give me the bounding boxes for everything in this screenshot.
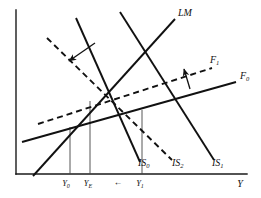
curve-label-is2: IS2 <box>171 157 184 169</box>
curve-is2 <box>47 38 172 160</box>
axes-group <box>16 10 247 174</box>
curve-label-is1: IS1 <box>211 157 224 169</box>
curve-label-f1: F1 <box>209 54 219 66</box>
curve-label-is0: IS0 <box>137 157 150 169</box>
curves-group <box>22 12 236 176</box>
is-lm-figure: LM IS0 IS1 IS2 F0 F1 Y0 <box>0 0 261 198</box>
curve-label-lm: LM <box>177 7 193 18</box>
curve-f0 <box>22 82 236 142</box>
curve-label-f0: F0 <box>239 70 250 82</box>
curve-is1 <box>120 12 214 160</box>
x-tick-labels-group: Y0 YE Y1 ← Y <box>62 177 244 189</box>
x-tick-label-y0: Y0 <box>62 178 70 189</box>
x-tick-label-ye: YE <box>84 178 93 189</box>
annotation-arrows-group <box>69 43 190 89</box>
leftward-shift-arrow-icon: ← <box>114 177 123 187</box>
f-curve-shift-arrow <box>184 69 190 89</box>
curve-lm <box>33 19 175 176</box>
diagram-canvas: LM IS0 IS1 IS2 F0 F1 Y0 <box>0 0 261 198</box>
curve-is0 <box>76 18 140 162</box>
x-axis-label: Y <box>237 178 244 189</box>
curve-labels-group: LM IS0 IS1 IS2 F0 F1 <box>137 7 250 169</box>
x-tick-label-y1: Y1 <box>136 178 144 189</box>
